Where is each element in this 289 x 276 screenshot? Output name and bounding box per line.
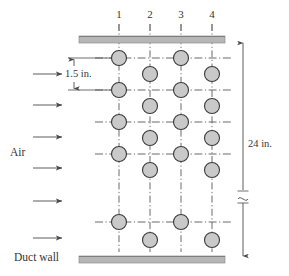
tube-c2-r2 — [143, 99, 158, 114]
tube-bank-diagram: 1 2 3 4 1.5 in. 24 in. Air Duct wall — [0, 0, 289, 276]
tube-c1-r5 — [112, 215, 127, 230]
tube-c1-r1 — [112, 51, 127, 66]
tube-c3-r3 — [174, 115, 189, 130]
tube-c2-r3 — [143, 131, 158, 146]
air-flow-arrows — [33, 74, 62, 238]
duct-height-dimension-label: 24 in. — [248, 139, 272, 150]
diagram-canvas — [0, 0, 289, 276]
tube-c2-r5 — [143, 233, 158, 248]
tube-c4-r4 — [205, 163, 220, 178]
column-label-2: 2 — [142, 9, 158, 20]
tube-c4-r5 — [205, 233, 220, 248]
tube-c2-r1 — [143, 67, 158, 82]
tube-c4-r2 — [205, 99, 220, 114]
tube-c3-r4 — [174, 147, 189, 162]
tube-c1-r3 — [112, 115, 127, 130]
tube-c3-r2 — [174, 83, 189, 98]
air-flow-label: Air — [10, 147, 25, 159]
duct-wall-label: Duct wall — [14, 252, 59, 264]
break-symbol-tilde — [238, 198, 248, 201]
tube-c3-r5 — [174, 215, 189, 230]
column-label-4: 4 — [204, 9, 220, 20]
column-label-ticks — [119, 24, 212, 31]
tube-c1-r4 — [112, 147, 127, 162]
column-label-1: 1 — [111, 9, 127, 20]
tube-bank — [112, 51, 220, 248]
tube-c4-r1 — [205, 67, 220, 82]
height-dimension-group — [238, 43, 249, 256]
column-label-3: 3 — [173, 9, 189, 20]
tube-c4-r3 — [205, 131, 220, 146]
tube-c3-r1 — [174, 51, 189, 66]
tube-c1-r2 — [112, 83, 127, 98]
tube-c2-r4 — [143, 163, 158, 178]
pitch-dimension-label: 1.5 in. — [65, 69, 92, 80]
